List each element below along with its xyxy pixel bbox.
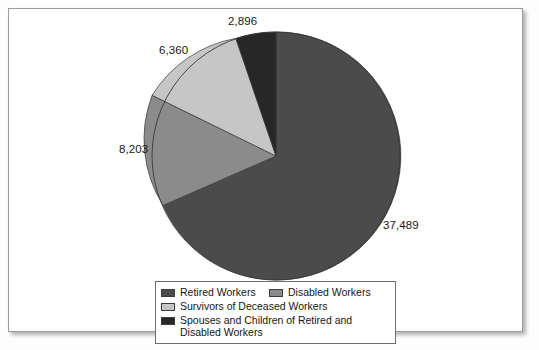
pie-value-label-survivors: 6,360 [159,44,188,56]
pie-value-label-retired-workers: 37,489 [383,219,419,231]
pie-value-label-spouses-and-children: 2,896 [228,15,257,27]
legend-item-retired-workers[interactable]: Retired Workers [161,286,269,298]
legend-swatch-icon-survivors [161,303,175,311]
legend-item-survivors[interactable]: Survivors of Deceased Workers [161,300,327,312]
legend-label-survivors: Survivors of Deceased Workers [180,300,327,312]
legend-item-spouses-and-children[interactable]: Spouses and Children of Retired and Disa… [161,314,352,338]
pie-value-label-disabled-workers: 8,203 [119,143,148,155]
figure-frame: 2,896 6,360 8,203 37,489 Retired Workers… [8,8,523,332]
legend-swatch-icon-spouses-and-children [161,317,175,325]
legend-row-2: Survivors of Deceased Workers [161,300,390,312]
legend-swatch-icon-disabled-workers [269,289,283,297]
legend-row-1: Retired Workers Disabled Workers [161,286,390,298]
legend-label-spouses-and-children: Spouses and Children of Retired and Disa… [180,314,352,338]
page-root: 2,896 6,360 8,203 37,489 Retired Workers… [0,0,539,350]
legend-label-retired-workers: Retired Workers [180,286,256,298]
legend-swatch-icon-retired-workers [161,289,175,297]
legend-row-3: Spouses and Children of Retired and Disa… [161,314,390,338]
chart-legend: Retired Workers Disabled Workers Survivo… [155,281,396,344]
legend-item-disabled-workers[interactable]: Disabled Workers [269,286,371,298]
legend-label-disabled-workers: Disabled Workers [288,286,371,298]
